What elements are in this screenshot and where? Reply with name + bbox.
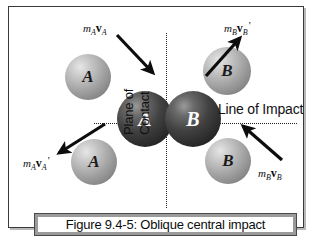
sphere-incoming-a: A [65,54,111,100]
vector-mass-symbol: m [224,22,232,34]
vector-prime-mark: ' [249,19,251,31]
figure-frame: ABABAB mAvAmBvB'mAvA'mBvB Line of Impact… [8,6,304,228]
vector-mass-symbol: m [23,157,31,169]
figure-container: ABABAB mAvAmBvB'mAvA'mBvB Line of Impact… [0,0,313,237]
diagram-canvas: ABABAB mAvAmBvB'mAvA'mBvB Line of Impact… [9,7,303,227]
vector-velocity-subscript: A [102,28,107,37]
sphere-incoming-b: B [203,47,251,95]
plane-of-contact-line1: Plane of [121,89,136,135]
vector-label-m-b-v-b: mBvB [258,164,283,182]
line-of-impact-label: Line of Impact [218,101,303,117]
vector-label-m-a-v-a-prime: mAvA' [23,154,50,172]
plane-of-contact-line2: Contact [137,92,152,135]
vector-label-m-a-v-a: mAvA [83,19,108,37]
sphere-outgoing-a: A [71,139,117,185]
vector-velocity-subscript: B [243,28,248,37]
figure-caption-text: Figure 9.4-5: Oblique central impact [66,217,265,232]
sphere-label-incoming-a: A [65,54,111,100]
vector-velocity-subscript: B [277,173,282,182]
vector-label-m-b-v-b-prime: mBvB' [224,19,251,37]
vector-mass-symbol: m [83,22,91,34]
vector-velocity-subscript: A [42,163,47,172]
sphere-outgoing-b: B [205,138,251,184]
vector-prime-mark: ' [48,154,50,166]
sphere-label-outgoing-b: B [205,138,251,184]
sphere-label-incoming-b: B [203,47,251,95]
figure-caption-box: Figure 9.4-5: Oblique central impact [35,214,296,235]
sphere-label-outgoing-a: A [71,139,117,185]
vector-mass-symbol: m [258,167,266,179]
plane-of-contact-label: Plane of Contact [121,55,136,135]
